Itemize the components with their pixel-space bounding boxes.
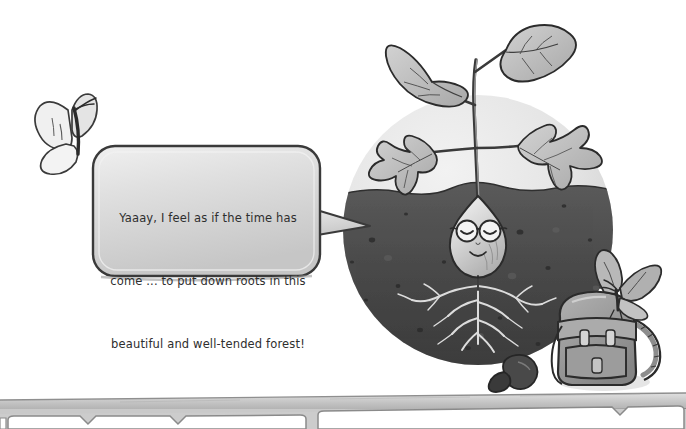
leaf-upper-left (386, 45, 468, 106)
illustration-scene: Yaaay, I feel as if the time has come ..… (0, 0, 686, 429)
backpack (552, 292, 660, 391)
decorative-bottom-band (0, 393, 686, 429)
butterfly-flying (35, 94, 97, 174)
speech-bubble (93, 146, 370, 280)
leaf-upper-right (500, 25, 576, 82)
illustration-canvas (0, 0, 686, 429)
